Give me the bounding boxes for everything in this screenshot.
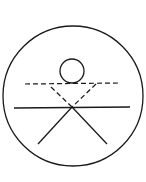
figure-in-circle-diagram: [0, 0, 146, 182]
dashed-right-arm-line: [72, 84, 96, 107]
head-circle: [60, 59, 84, 83]
outer-circle: [3, 26, 143, 166]
diagram-canvas: [0, 0, 146, 182]
left-leg-line: [38, 107, 72, 144]
right-leg-line: [72, 107, 107, 144]
dashed-left-arm-line: [51, 87, 72, 107]
